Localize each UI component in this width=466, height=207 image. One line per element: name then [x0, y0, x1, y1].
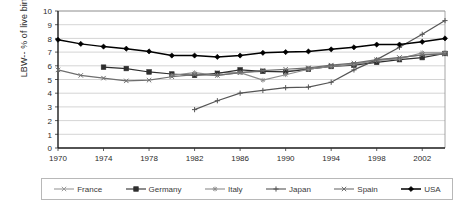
data-point — [420, 39, 425, 44]
data-point — [101, 44, 106, 49]
legend-item-japan[interactable]: Japan — [265, 184, 311, 194]
y-tick-label: 1 — [48, 131, 53, 140]
data-point — [351, 45, 356, 50]
chart-legend: FranceGermanyItalyJapanSpainUSA — [41, 178, 453, 200]
legend-label: Spain — [357, 185, 377, 194]
legend-marker-plus-icon — [265, 184, 287, 194]
x-tick-label: 1978 — [140, 154, 158, 163]
y-tick-label: 8 — [48, 35, 53, 44]
data-point — [238, 53, 243, 58]
legend-marker-square-icon — [125, 184, 147, 194]
legend-item-france[interactable]: France — [53, 184, 102, 194]
data-point — [55, 37, 60, 42]
series-line — [104, 53, 445, 75]
data-point — [192, 53, 197, 58]
data-point — [147, 70, 152, 75]
series-germany — [101, 51, 447, 78]
data-point — [215, 54, 220, 59]
plot-area: 0123456789101970197419781982198619901994… — [0, 0, 466, 165]
y-tick-label: 7 — [48, 48, 53, 57]
legend-item-spain[interactable]: Spain — [333, 184, 377, 194]
x-tick-label: 1970 — [49, 154, 67, 163]
series-japan — [192, 18, 448, 112]
data-point — [409, 186, 414, 191]
y-tick-label: 0 — [48, 144, 53, 153]
x-tick-label: 1982 — [186, 154, 204, 163]
legend-label: France — [77, 185, 102, 194]
legend-marker-cross-icon — [53, 184, 75, 194]
x-tick-label: 1990 — [277, 154, 295, 163]
data-point — [133, 187, 138, 192]
y-tick-label: 2 — [48, 117, 53, 126]
x-tick-label: 2002 — [413, 154, 431, 163]
data-point — [329, 47, 334, 52]
legend-item-italy[interactable]: Italy — [204, 184, 243, 194]
legend-label: Italy — [228, 185, 243, 194]
data-point — [260, 50, 265, 55]
chart-container: LBW-- % of live births 01234567891019701… — [0, 0, 466, 207]
x-tick-label: 1998 — [368, 154, 386, 163]
data-point — [146, 49, 151, 54]
series-italy — [169, 50, 447, 82]
legend-label: USA — [424, 185, 440, 194]
data-point — [78, 41, 83, 46]
legend-marker-cross-icon — [333, 184, 355, 194]
series-usa — [55, 36, 447, 60]
legend-marker-star-icon — [204, 184, 226, 194]
x-tick-label: 1974 — [95, 154, 113, 163]
y-tick-label: 4 — [48, 89, 53, 98]
legend-label: Japan — [289, 185, 311, 194]
y-tick-label: 9 — [48, 21, 53, 30]
line-chart-svg: 0123456789101970197419781982198619901994… — [0, 0, 466, 165]
y-tick-label: 6 — [48, 62, 53, 71]
data-point — [374, 42, 379, 47]
data-point — [101, 65, 106, 70]
x-tick-label: 1994 — [322, 154, 340, 163]
data-point — [283, 50, 288, 55]
series-line — [195, 21, 445, 110]
data-point — [306, 49, 311, 54]
data-point — [169, 53, 174, 58]
y-tick-label: 3 — [48, 103, 53, 112]
y-tick-label: 5 — [48, 76, 53, 85]
legend-item-usa[interactable]: USA — [400, 184, 440, 194]
y-tick-label: 10 — [43, 7, 52, 16]
data-point — [442, 36, 447, 41]
x-tick-label: 1986 — [231, 154, 249, 163]
legend-label: Germany — [149, 185, 182, 194]
legend-item-germany[interactable]: Germany — [125, 184, 182, 194]
data-point — [124, 66, 129, 71]
data-point — [124, 46, 129, 51]
legend-marker-diamond-icon — [400, 184, 422, 194]
